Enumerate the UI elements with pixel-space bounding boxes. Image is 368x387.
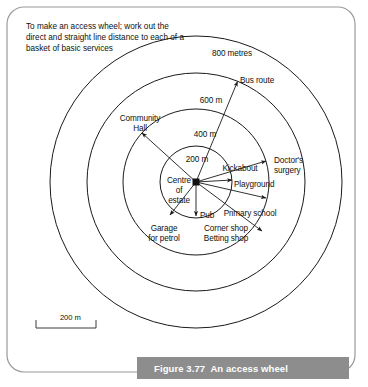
label-doctors-surgery-line2: surgery	[274, 166, 301, 176]
label-doctors-surgery-line1: Doctor's	[274, 156, 303, 166]
ring-label-400m: 400 m	[194, 130, 216, 140]
centre-label-line1: Centre	[167, 176, 191, 186]
access-wheel-diagram	[0, 0, 368, 387]
label-playground: Playground	[234, 180, 274, 190]
label-community-hall-line2: Hall	[133, 124, 147, 134]
ring-label-200m: 200 m	[186, 155, 208, 165]
centre-label-line3: estate	[168, 196, 190, 206]
label-pub: Pub	[200, 211, 214, 221]
figure-container: To make an access wheel; work out the di…	[0, 0, 368, 387]
label-betting-shop: Betting shop	[204, 234, 248, 244]
ring-label-600m: 600 m	[200, 96, 222, 106]
label-bus-route: Bus route	[240, 76, 274, 86]
label-community-hall-line1: Community	[120, 114, 161, 124]
label-corner-shop: Corner shop	[204, 224, 248, 234]
label-primary-school: Primary school	[224, 209, 277, 219]
centre-label-line2: of	[176, 186, 183, 196]
label-kickabout: Kickabout	[222, 164, 257, 174]
centre-of-estate-marker	[193, 179, 200, 186]
figure-caption-text: Figure 3.77 An access wheel	[137, 363, 288, 374]
scale-bar-label: 200 m	[60, 313, 81, 323]
intro-note: To make an access wheel; work out the di…	[26, 21, 191, 54]
figure-caption-bar: Figure 3.77 An access wheel	[137, 357, 349, 379]
label-garage-line2: for petrol	[148, 234, 179, 244]
ring-label-800m: 800 metres	[212, 49, 252, 59]
label-garage-line1: Garage	[151, 224, 178, 234]
